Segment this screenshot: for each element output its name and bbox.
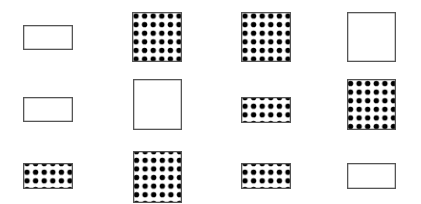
dot-pattern-fill bbox=[133, 151, 182, 203]
empty-square-r1c4 bbox=[347, 12, 396, 62]
empty-rectangle-r2c1 bbox=[23, 97, 73, 122]
shape-outline bbox=[348, 164, 396, 189]
shape-outline bbox=[348, 13, 396, 62]
dot-pattern-fill bbox=[347, 79, 396, 130]
dotted-rectangle-r3c1 bbox=[23, 163, 73, 189]
dotted-square-r3c2 bbox=[133, 151, 182, 203]
shape-grid bbox=[0, 0, 421, 204]
dotted-square-r1c2 bbox=[132, 12, 182, 62]
empty-rectangle-r3c4 bbox=[347, 163, 396, 189]
dotted-square-r2c4 bbox=[347, 79, 396, 130]
shape-outline bbox=[24, 26, 73, 50]
dotted-rectangle-r3c3 bbox=[241, 163, 291, 189]
empty-square-r2c2 bbox=[133, 79, 182, 130]
shape-outline bbox=[24, 98, 73, 122]
dot-pattern-fill bbox=[241, 12, 291, 62]
dot-pattern-fill bbox=[241, 163, 291, 189]
dotted-square-r1c3 bbox=[241, 12, 291, 62]
dot-pattern-fill bbox=[241, 97, 291, 123]
empty-rectangle-r1c1 bbox=[23, 25, 73, 50]
dot-pattern-fill bbox=[132, 12, 182, 62]
dot-pattern-fill bbox=[23, 163, 73, 189]
shape-outline bbox=[134, 80, 182, 130]
dotted-rectangle-r2c3 bbox=[241, 97, 291, 123]
